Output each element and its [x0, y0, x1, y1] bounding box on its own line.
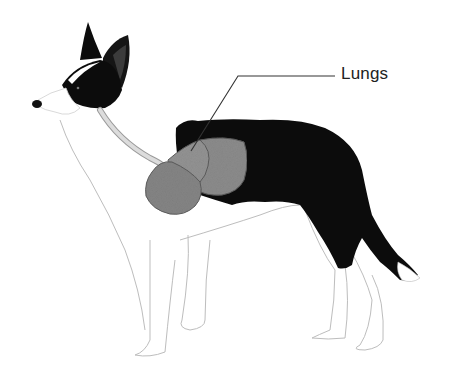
ear-left: [80, 22, 102, 60]
trachea: [100, 110, 162, 165]
eye: [77, 87, 80, 90]
nose: [32, 100, 42, 108]
head: [32, 22, 130, 114]
diagram-canvas: Lungs: [0, 0, 455, 377]
lungs-label: Lungs: [341, 64, 388, 84]
dog-illustration: [0, 0, 455, 377]
